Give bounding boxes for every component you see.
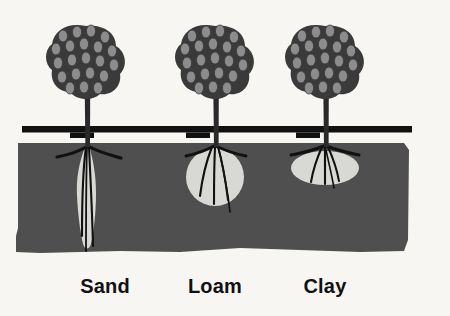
soil-label-sand: Sand [60, 276, 150, 296]
emitter-loam [186, 133, 210, 139]
emitter-clay [296, 133, 320, 139]
soil-label-loam: Loam [170, 276, 260, 296]
soil-water-movement-figure: Sand Loam Clay [0, 0, 450, 316]
diagram-canvas [0, 0, 450, 316]
soil-label-clay: Clay [280, 276, 370, 296]
emitter-sand [70, 133, 94, 139]
